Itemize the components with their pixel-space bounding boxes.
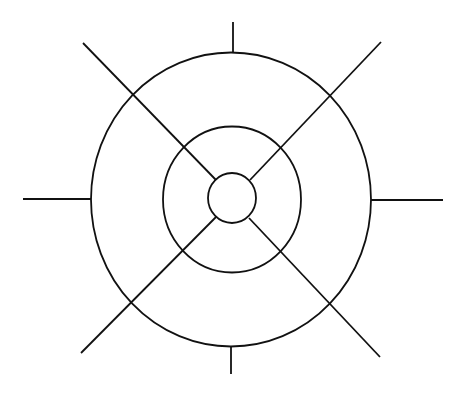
spoke-bottom-left — [81, 217, 216, 353]
axis-ticks-group — [23, 22, 443, 374]
inner-circle — [208, 173, 256, 223]
diagonal-spokes-group — [81, 42, 381, 357]
diagram-canvas — [0, 0, 467, 396]
spoke-top-right — [250, 42, 381, 180]
concentric-spoke-diagram — [0, 0, 467, 396]
spoke-bottom-right — [249, 218, 380, 357]
spoke-top-left — [83, 43, 216, 180]
